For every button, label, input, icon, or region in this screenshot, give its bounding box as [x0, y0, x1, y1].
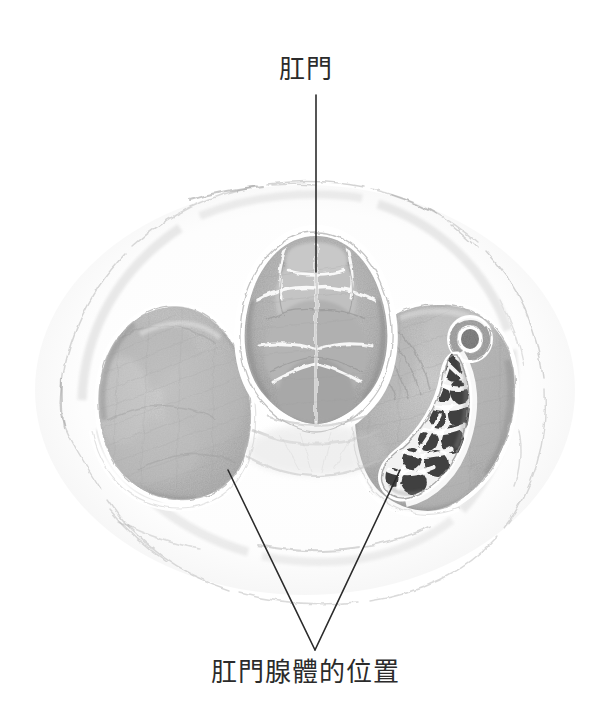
anus-label: 肛門: [0, 55, 611, 84]
anatomical-cross-section-figure: [0, 0, 611, 714]
anal-glands-label: 肛門腺體的位置: [0, 658, 611, 687]
